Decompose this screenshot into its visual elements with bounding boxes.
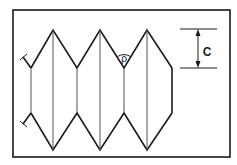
dimension-label: C — [203, 45, 212, 59]
angle-label: ρ — [121, 53, 127, 64]
thread-diagram: ρ C — [0, 0, 237, 165]
